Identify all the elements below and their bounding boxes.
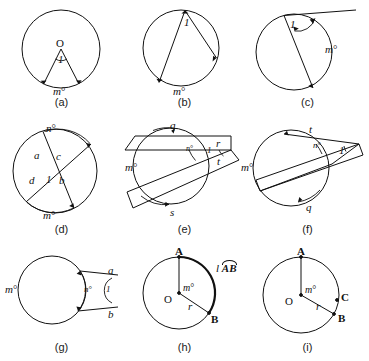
segment-label-b: b: [59, 175, 65, 186]
bracket-left: [256, 180, 260, 191]
caption-d: (d): [0, 223, 123, 235]
circle: [18, 256, 86, 324]
angle-label-1: 1: [207, 146, 212, 155]
caption-b: (b): [123, 96, 246, 108]
panel-i-sector-area: A B C O m° r (i): [246, 245, 369, 361]
central-angle-label-m: m°: [305, 285, 316, 295]
caption-c: (c): [246, 96, 369, 108]
bracket-right: [359, 144, 363, 155]
segment-label-t: t: [309, 124, 312, 135]
point-b-dot: [333, 313, 336, 316]
panel-d-two-chords: n° a c d b 1 m° (d): [0, 118, 123, 245]
segment-label-q: q: [170, 120, 176, 131]
arc-label-m: m°: [125, 162, 137, 173]
point-c-dot: [336, 299, 339, 302]
segment-label-r: r: [216, 138, 220, 149]
center-label-o: O: [285, 296, 293, 307]
radius-label-r: r: [316, 301, 320, 312]
center-dot: [178, 292, 181, 295]
segment-label-q: q: [306, 202, 312, 213]
arc-length-label: l AB: [216, 263, 237, 274]
arrow-bottom-right: [69, 203, 74, 208]
arc-label-n: n°: [186, 145, 193, 153]
panel-c-tangent-chord-angle: 1 m° (c): [246, 0, 369, 118]
segment-label-a: a: [34, 150, 40, 161]
chord-right: [185, 11, 217, 59]
segment-label-b: b: [108, 309, 114, 320]
arc-label-n: n°: [46, 123, 56, 134]
bracket-lower-left: [127, 192, 133, 208]
center-label-o: O: [56, 38, 64, 49]
arc-label-m: m°: [5, 284, 17, 295]
panel-a-central-angle: O 1 m° (a): [0, 0, 123, 118]
chord-left: [159, 11, 185, 83]
tangent-line: [284, 10, 356, 16]
segment-label-d: d: [29, 175, 35, 186]
center-label-o: O: [164, 294, 172, 305]
arc-label-m: m°: [241, 162, 253, 173]
point-label-a: A: [297, 246, 305, 257]
angle-label-1: 1: [106, 285, 111, 294]
angle-label-1: 1: [46, 174, 52, 185]
angle-label-1: 1: [184, 17, 190, 28]
caption-a: (a): [0, 96, 123, 108]
angle-label-1: 1: [58, 54, 64, 65]
segment-label-t: t: [217, 156, 220, 167]
point-label-b: B: [211, 314, 218, 325]
panel-g-two-tangents: a b n° 1 m° (g): [0, 245, 123, 361]
circle: [133, 128, 209, 204]
panel-h-arc-length: A B O m° r l AB (h): [123, 245, 246, 361]
point-label-b: B: [338, 313, 345, 324]
arc-label-n: n°: [313, 141, 321, 150]
center-dot: [300, 294, 303, 297]
point-label-a: A: [175, 246, 183, 257]
bracket-upper-left: [125, 136, 135, 150]
radius-ob: [179, 293, 209, 313]
arrow-s: [165, 202, 169, 207]
bracket-lower-right: [231, 150, 239, 160]
caption-f: (f): [246, 223, 369, 235]
band-inner: [260, 164, 332, 191]
segment-label-s: s: [170, 207, 174, 218]
chord-one: [43, 132, 74, 209]
segment-label-a: a: [108, 265, 114, 276]
caption-e: (e): [123, 223, 246, 235]
chord: [284, 16, 313, 89]
radius-right: [61, 49, 79, 84]
radius-label-r: r: [188, 301, 192, 312]
angle-label-1: 1: [290, 19, 296, 30]
point-label-c: C: [341, 292, 349, 303]
caption-g: (g): [0, 341, 123, 353]
angle-label-1: 1: [339, 145, 345, 156]
point-b-dot: [208, 312, 211, 315]
circle: [13, 129, 97, 213]
arc-label-n: n°: [84, 285, 92, 294]
panel-e-two-secants: q s r t n° 1 m° (e): [123, 118, 246, 245]
figure-panel-grid: O 1 m° (a) 1 m° (b) 1 m° (c): [0, 0, 369, 361]
segment-label-c: c: [56, 151, 61, 162]
panel-b-inscribed-angle: 1 m° (b): [123, 0, 246, 118]
caption-h: (h): [123, 341, 246, 353]
panel-f-secant-tangent: t q n° 1 m° (f): [246, 118, 369, 245]
secant-upper: [284, 134, 359, 144]
caption-i: (i): [246, 341, 369, 353]
arc-label-m: m°: [325, 44, 337, 55]
central-angle-label-m: m°: [183, 283, 194, 293]
arc-label-m: m°: [43, 210, 55, 221]
